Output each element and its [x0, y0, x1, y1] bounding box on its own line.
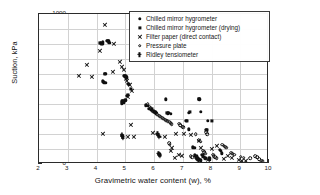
data-point	[157, 152, 160, 155]
data-point	[120, 132, 124, 137]
data-point	[121, 134, 125, 139]
data-point	[128, 122, 132, 126]
data-point	[106, 39, 109, 42]
data-point	[205, 133, 209, 137]
data-point	[125, 94, 128, 97]
data-point	[229, 151, 233, 155]
data-point	[120, 65, 124, 69]
data-point	[124, 76, 128, 80]
data-point	[123, 74, 126, 77]
gridline-horizontal	[39, 89, 267, 90]
data-point	[90, 75, 94, 79]
data-point	[163, 134, 167, 138]
data-point	[122, 74, 125, 77]
data-point	[108, 41, 111, 44]
data-point	[122, 100, 125, 103]
data-point	[120, 133, 123, 136]
data-point	[150, 109, 154, 113]
data-point	[158, 153, 161, 156]
data-point	[205, 130, 209, 134]
data-point	[150, 131, 154, 135]
data-point	[182, 126, 186, 130]
data-point	[153, 110, 157, 114]
data-point	[193, 154, 196, 157]
data-point	[199, 110, 202, 113]
data-point	[165, 111, 168, 114]
data-point	[167, 111, 170, 114]
data-point	[177, 152, 181, 156]
data-point	[221, 143, 225, 147]
data-point	[154, 111, 157, 114]
data-point	[195, 155, 199, 160]
data-point	[199, 140, 203, 144]
data-point	[206, 157, 210, 161]
data-point	[203, 151, 207, 155]
legend-item-0[interactable]: Chilled mirror hygrometer	[133, 14, 266, 23]
legend-item-3[interactable]: Pressure plate	[133, 41, 266, 50]
data-point	[101, 131, 105, 135]
data-point	[242, 156, 246, 160]
data-point	[146, 104, 149, 107]
data-point	[219, 149, 222, 152]
data-point	[239, 158, 243, 162]
filled-circle-marker-icon	[138, 17, 141, 20]
data-point	[129, 88, 133, 92]
data-point	[156, 113, 160, 117]
data-point	[210, 147, 214, 151]
cross-marker-icon	[137, 34, 141, 38]
data-point	[144, 103, 147, 106]
data-point	[208, 158, 211, 161]
data-point	[187, 111, 190, 114]
data-point	[148, 105, 152, 109]
data-point	[112, 42, 116, 46]
data-point	[237, 158, 241, 162]
data-point	[189, 133, 193, 137]
data-point	[157, 134, 161, 139]
data-point	[180, 154, 184, 158]
data-point	[77, 74, 81, 78]
data-point	[239, 155, 243, 159]
gridline-vertical	[68, 14, 69, 162]
data-point	[196, 139, 200, 143]
gridline-horizontal	[39, 134, 267, 135]
data-point	[190, 156, 194, 160]
data-point	[102, 23, 106, 27]
data-point	[191, 145, 194, 148]
data-point	[249, 157, 253, 161]
data-point	[126, 82, 129, 85]
data-point	[202, 155, 205, 158]
data-point	[121, 99, 124, 102]
data-point	[101, 42, 104, 45]
data-point	[126, 93, 129, 96]
data-point	[84, 63, 88, 67]
data-point	[259, 159, 263, 162]
open-circle-legend-icon	[133, 41, 146, 50]
gridline-horizontal	[39, 104, 267, 105]
legend-item-2[interactable]: Filter paper (direct contact)	[133, 32, 266, 41]
data-point	[198, 97, 201, 100]
data-point	[152, 110, 156, 114]
filled-circle-legend-icon	[133, 14, 146, 23]
data-point	[103, 81, 106, 84]
gridline-vertical	[125, 14, 126, 162]
data-point	[188, 111, 191, 114]
legend-item-1[interactable]: Chilled mirror hygrometer (drying)	[133, 23, 266, 32]
data-point	[121, 100, 124, 103]
data-point	[218, 148, 221, 151]
data-point	[103, 73, 106, 76]
data-point	[180, 125, 184, 129]
data-point	[168, 120, 172, 124]
legend-item-label: Pressure plate	[146, 41, 187, 50]
data-point	[184, 119, 187, 122]
x-axis-tick-label: 4	[88, 165, 104, 171]
data-point	[110, 70, 114, 74]
data-point	[201, 153, 204, 156]
x-axis-tick-label: 5	[116, 165, 132, 171]
data-point	[149, 108, 152, 111]
legend-item-4[interactable]: Ridley tensiometer	[133, 50, 266, 59]
data-point	[129, 88, 132, 91]
data-point	[225, 154, 229, 158]
data-point	[152, 109, 155, 112]
data-point	[166, 112, 169, 115]
data-point	[106, 39, 109, 42]
